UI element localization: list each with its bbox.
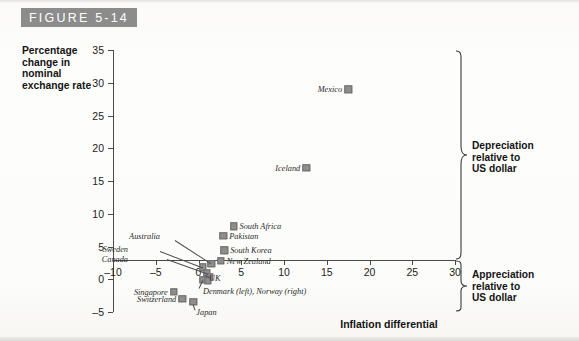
annotation-line: relative to — [472, 281, 534, 293]
x-tick-label: 5 — [238, 266, 244, 278]
figure-page: FIGURE 5-14 Percentage change in nominal… — [0, 0, 579, 341]
figure-banner: FIGURE 5-14 — [21, 8, 137, 27]
y-tick — [108, 83, 113, 84]
data-point-marker — [217, 257, 224, 264]
japan-label: Japan — [196, 307, 216, 316]
x-axis-title: Inflation differential — [340, 318, 437, 330]
data-point-label: New Zealand — [227, 256, 271, 265]
scan-edge-bottom — [0, 337, 579, 341]
x-tick — [412, 260, 413, 265]
y-tick — [108, 181, 113, 182]
data-point-label: South Africa — [240, 222, 282, 231]
y-tick-label: 15 — [92, 175, 104, 187]
y-tick — [108, 50, 113, 51]
data-point-marker — [220, 232, 227, 239]
data-point-label: Mexico — [318, 85, 342, 94]
x-tick-label: 25 — [406, 266, 418, 278]
data-point-marker — [179, 295, 186, 302]
y-tick — [108, 312, 113, 313]
data-point-marker — [303, 164, 310, 171]
appreciation-annotation: Appreciationrelative toUS dollar — [472, 269, 534, 304]
x-tick — [370, 260, 371, 265]
annotation-line: Appreciation — [472, 269, 534, 281]
denmark-norway-label: Denmark (left), Norway (right) — [203, 287, 306, 296]
annotation-line: Depreciation — [472, 140, 534, 152]
y-tick-label: 35 — [92, 44, 104, 56]
x-tick-label: 15 — [321, 266, 333, 278]
y-tick-label: 25 — [92, 110, 104, 122]
x-tick-label: –10 — [104, 266, 122, 278]
data-point-label: Canada — [102, 255, 128, 264]
data-point-marker — [344, 86, 351, 93]
x-tick — [327, 260, 328, 265]
y-tick — [108, 148, 113, 149]
data-point-label: South Korea — [230, 246, 271, 255]
y-tick — [108, 279, 113, 280]
y-tick-label: 20 — [92, 142, 104, 154]
x-tick — [156, 260, 157, 265]
data-point-label: Iceland — [275, 163, 300, 172]
annotation-line: US dollar — [472, 163, 534, 175]
appreciation-brace-icon — [455, 260, 469, 312]
data-point-marker — [220, 247, 227, 254]
plot-area: 35302520151050–5 –10–5051015202530 Mexic… — [113, 50, 455, 312]
y-tick — [108, 116, 113, 117]
y-tick-label: 30 — [92, 77, 104, 89]
x-tick-label: 20 — [364, 266, 376, 278]
data-point-label: Sweden — [103, 245, 128, 254]
y-tick-label: –5 — [92, 306, 104, 318]
figure-banner-label: FIGURE 5-14 — [29, 11, 129, 25]
appreciation-brace-wrap — [455, 260, 469, 312]
data-point-label: Pakistan — [229, 232, 258, 241]
y-tick-label: 0 — [98, 273, 104, 285]
depreciation-brace-icon — [455, 50, 469, 260]
depreciation-brace-wrap — [455, 50, 469, 260]
x-tick-label: –5 — [150, 266, 162, 278]
data-point-label: UK — [209, 274, 221, 283]
data-point-marker — [230, 222, 237, 229]
annotation-line: US dollar — [472, 292, 534, 304]
y-tick — [108, 214, 113, 215]
x-tick-label: 10 — [278, 266, 290, 278]
annotation-line: relative to — [472, 152, 534, 164]
y-tick-label: 10 — [92, 208, 104, 220]
data-point-label: Switzerland — [137, 294, 176, 303]
data-point-label: Australia — [129, 232, 160, 241]
depreciation-annotation: Depreciationrelative toUS dollar — [472, 140, 534, 175]
x-tick — [284, 260, 285, 265]
scan-edge-top — [0, 0, 579, 3]
